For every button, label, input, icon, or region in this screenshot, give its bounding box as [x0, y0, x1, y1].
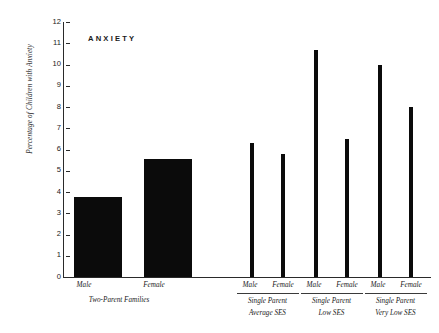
x-group-rule — [301, 293, 363, 294]
y-tick-label: 0 — [39, 272, 61, 282]
anxiety-bar-chart: Percentage of Children with Anxiety 12 1… — [0, 0, 439, 333]
y-tick-label: 4 — [39, 187, 61, 197]
y-tick-label: 8 — [39, 102, 61, 112]
y-tick-label: 11 — [39, 38, 61, 48]
y-tick-label: 3 — [39, 208, 61, 218]
bar-single-very-low-ses-female — [409, 107, 413, 277]
bar-single-low-ses-female — [345, 139, 349, 277]
x-category-label: Female — [389, 281, 433, 290]
plot-area — [64, 22, 431, 277]
y-tick-label: 12 — [39, 17, 61, 27]
y-tick-label: 2 — [39, 229, 61, 239]
y-tick-label: 5 — [39, 165, 61, 175]
bar-two-parent-female — [144, 159, 192, 277]
bar-single-low-ses-male — [314, 50, 318, 277]
x-group-label: Two-Parent Families — [54, 296, 184, 306]
x-group-sublabel: Very Low SES — [358, 309, 433, 319]
bar-single-avg-ses-female — [281, 154, 285, 277]
x-category-label: Male — [54, 281, 114, 290]
x-axis-line — [63, 277, 431, 278]
bar-two-parent-male — [74, 197, 122, 277]
y-tick-label: 10 — [39, 59, 61, 69]
x-group-label: Single Parent — [358, 297, 433, 307]
y-axis-title: Percentage of Children with Anxiety — [26, 0, 34, 199]
bar-single-avg-ses-male — [250, 143, 254, 277]
y-tick-label: 9 — [39, 80, 61, 90]
bar-single-very-low-ses-male — [378, 65, 382, 278]
y-tick-label: 1 — [39, 250, 61, 260]
x-group-rule — [237, 293, 299, 294]
y-tick-label: 7 — [39, 123, 61, 133]
y-tick-label: 6 — [39, 144, 61, 154]
x-category-label: Female — [124, 281, 184, 290]
x-group-rule — [365, 293, 427, 294]
